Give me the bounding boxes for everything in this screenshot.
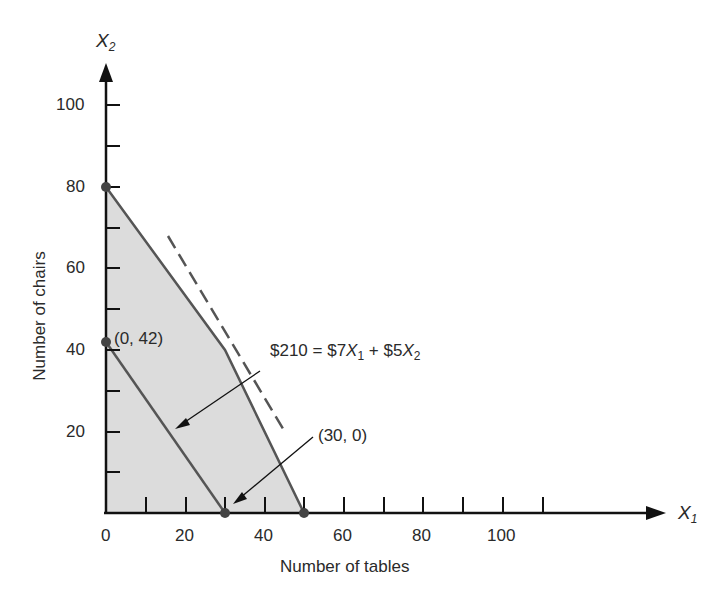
x-tick-label: 60 [333, 526, 352, 546]
y-tick-label: 80 [66, 177, 85, 197]
x-tick-label: 20 [175, 526, 194, 546]
x-tick-label: 0 [101, 526, 110, 546]
x-axis-symbol: X1 [678, 502, 697, 526]
y-tick-label: 20 [66, 422, 85, 442]
point-label-30-0: (30, 0) [318, 426, 367, 446]
x-axis-title: Number of tables [280, 557, 409, 577]
y-axis-arrow [99, 63, 113, 82]
y-tick-label: 60 [66, 258, 85, 278]
chart-plot [0, 0, 725, 602]
y-axis-title: Number of chairs [30, 246, 50, 386]
x-tick-label: 40 [254, 526, 273, 546]
y-axis-symbol: X2 [96, 30, 115, 54]
isoprofit-equation: $210 = $7X1 + $5X2 [270, 341, 420, 363]
point-label-0-42: (0, 42) [114, 329, 163, 349]
x-axis-arrow [646, 506, 666, 520]
x-tick-label: 100 [487, 526, 515, 546]
x-tick-label: 80 [412, 526, 431, 546]
y-tick-label: 40 [66, 340, 85, 360]
y-tick-label: 100 [56, 95, 84, 115]
